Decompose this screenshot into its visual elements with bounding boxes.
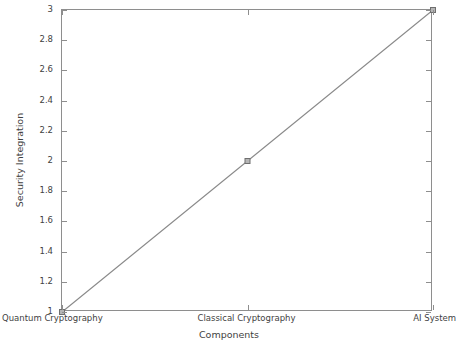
x-axis-title: Components	[0, 329, 458, 340]
y-axis-tick-label: 1.2	[39, 277, 53, 286]
x-axis-tick-mark	[248, 305, 249, 310]
y-axis-title-wrapper: Security Integration	[12, 9, 26, 311]
y-axis-tick-label: 2.2	[39, 126, 53, 135]
y-axis-tick-mark-right	[426, 282, 431, 283]
y-axis-tick-mark	[62, 252, 67, 253]
y-axis-tick-labels: 11.21.41.61.822.22.42.62.83	[0, 0, 57, 346]
y-axis-tick-mark	[62, 101, 67, 102]
y-axis-tick-mark-right	[426, 191, 431, 192]
plot-area	[61, 9, 432, 311]
y-axis-tick-label: 2.4	[39, 95, 53, 104]
y-axis-tick-mark-right	[426, 10, 431, 11]
x-axis-tick-labels: Quantum CryptographyClassical Cryptograp…	[0, 314, 458, 328]
y-axis-tick-mark	[62, 40, 67, 41]
x-axis-tick-label: Classical Cryptography	[198, 314, 296, 323]
data-point-marker	[245, 159, 250, 164]
y-axis-tick-mark-right	[426, 40, 431, 41]
x-axis-tick-label: AI System	[413, 314, 456, 323]
y-axis-tick-mark-right	[426, 131, 431, 132]
y-axis-tick-mark	[62, 131, 67, 132]
x-axis-tick-mark	[62, 305, 63, 310]
x-axis-tick-mark-top	[62, 10, 63, 15]
y-axis-tick-label: 1.8	[39, 186, 53, 195]
y-axis-tick-mark	[62, 221, 67, 222]
y-axis-tick-mark-right	[426, 101, 431, 102]
chart-figure: 11.21.41.61.822.22.42.62.83 Security Int…	[0, 0, 458, 346]
y-axis-tick-label: 3	[48, 5, 53, 14]
y-axis-tick-label: 2.8	[39, 35, 53, 44]
y-axis-tick-mark-right	[426, 161, 431, 162]
series-line	[62, 10, 433, 312]
x-axis-tick-label: Quantum Cryptography	[2, 314, 103, 323]
y-axis-tick-mark	[62, 191, 67, 192]
y-axis-title: Security Integration	[14, 113, 25, 207]
y-axis-tick-mark-right	[426, 221, 431, 222]
y-axis-tick-label: 2.6	[39, 65, 53, 74]
y-axis-tick-mark-right	[426, 70, 431, 71]
x-axis-tick-mark-top	[248, 10, 249, 15]
y-axis-tick-mark	[62, 161, 67, 162]
x-axis-tick-mark-top	[433, 10, 434, 15]
y-axis-tick-label: 2	[48, 156, 53, 165]
y-axis-tick-label: 1.6	[39, 216, 53, 225]
y-axis-tick-mark	[62, 70, 67, 71]
y-axis-tick-mark	[62, 282, 67, 283]
y-axis-tick-mark-right	[426, 252, 431, 253]
y-axis-tick-label: 1.4	[39, 246, 53, 255]
x-axis-tick-mark	[433, 305, 434, 310]
